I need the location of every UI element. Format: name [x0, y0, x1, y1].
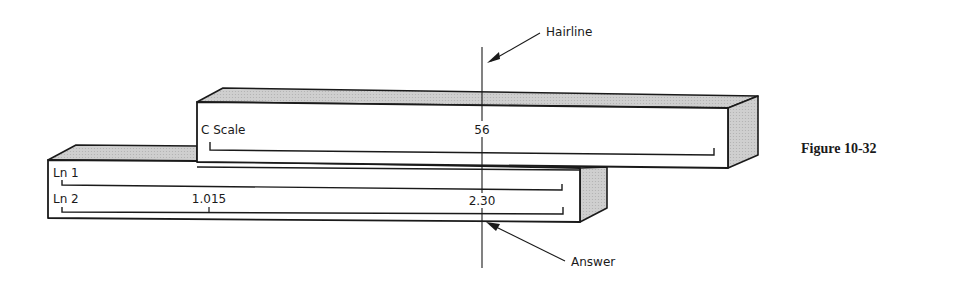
slide-front-face [197, 102, 728, 168]
c-scale-reading: 56 [474, 123, 489, 137]
figure-caption: Figure 10-32 [801, 141, 877, 156]
slide-rule-diagram: C Scale 56 Ln 1 Ln 2 1.015 2.30 Hairline… [0, 0, 959, 290]
ln2-mark-1015: 1.015 [192, 192, 226, 206]
body-top-face [48, 145, 197, 161]
ln2-reading: 2.30 [469, 194, 496, 208]
hairline-callout: Hairline [487, 25, 592, 63]
hairline-label: Hairline [546, 25, 592, 39]
answer-callout: Answer [486, 222, 615, 269]
slide-side-face [728, 96, 758, 168]
body-side-face [580, 167, 607, 222]
ln2-label: Ln 2 [53, 192, 79, 206]
c-scale-label: C Scale [201, 123, 245, 137]
answer-label: Answer [571, 255, 615, 269]
arrowhead-icon [486, 222, 500, 231]
ln1-label: Ln 1 [53, 166, 79, 180]
arrowhead-icon [487, 52, 500, 63]
